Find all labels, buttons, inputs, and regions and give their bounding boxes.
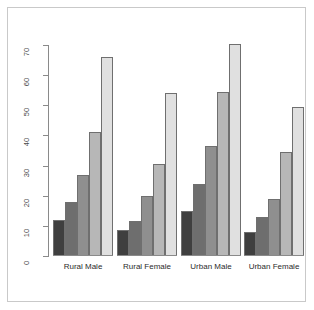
bar-group-bars	[181, 45, 241, 256]
bar	[153, 164, 165, 256]
y-axis-tick	[43, 75, 48, 76]
bar	[268, 199, 280, 256]
bar	[65, 202, 77, 256]
bar	[77, 175, 89, 256]
bar	[205, 146, 217, 256]
bar-group: Urban Male	[181, 45, 241, 256]
bar	[217, 92, 229, 256]
bar-group-bars	[53, 45, 113, 256]
y-axis-line	[48, 45, 49, 257]
bar	[244, 232, 256, 256]
y-axis-tick-label-text: 0	[22, 261, 32, 265]
bar-group: Urban Female	[244, 45, 304, 256]
bar	[292, 107, 304, 256]
y-axis-tick-label: 50	[14, 100, 40, 110]
y-axis-tick	[43, 166, 48, 167]
chart-figure: 010203040506070 Rural MaleRural FemaleUr…	[0, 0, 314, 310]
bar-group: Rural Female	[117, 45, 177, 256]
bar-group-bars	[244, 45, 304, 256]
y-axis-tick-label: 20	[14, 191, 40, 201]
y-axis-tick-label-text: 60	[22, 78, 32, 86]
bar	[89, 132, 101, 256]
bar	[193, 184, 205, 256]
y-axis-tick	[43, 226, 48, 227]
y-axis-tick-label-text: 50	[22, 108, 32, 116]
plot-area: 010203040506070 Rural MaleRural FemaleUr…	[0, 0, 314, 310]
bar	[229, 44, 241, 257]
x-axis-group-label: Urban Female	[226, 256, 314, 278]
y-axis-tick-label-text: 30	[22, 168, 32, 176]
y-axis-tick-label-text: 40	[22, 138, 32, 146]
y-axis-tick-label: 40	[14, 130, 40, 140]
bar	[256, 217, 268, 256]
y-axis-tick-label: 70	[14, 40, 40, 50]
bar	[181, 211, 193, 256]
bar	[129, 221, 141, 256]
bar	[117, 230, 129, 256]
bar-group-bars	[117, 45, 177, 256]
y-axis-tick-label: 10	[14, 221, 40, 231]
bar	[165, 93, 177, 256]
y-axis-tick-label-text: 20	[22, 199, 32, 207]
bar	[141, 196, 153, 256]
bar-group: Rural Male	[53, 45, 113, 256]
bar	[280, 152, 292, 256]
y-axis-tick	[43, 105, 48, 106]
y-axis-tick	[43, 135, 48, 136]
y-axis-tick-label-text: 70	[22, 48, 32, 56]
bar	[53, 220, 65, 256]
y-axis-tick-label: 60	[14, 70, 40, 80]
bar	[101, 57, 113, 256]
y-axis-tick	[43, 45, 48, 46]
y-axis-tick-label-text: 10	[22, 229, 32, 237]
y-axis-tick	[43, 196, 48, 197]
y-axis-tick-label: 30	[14, 161, 40, 171]
